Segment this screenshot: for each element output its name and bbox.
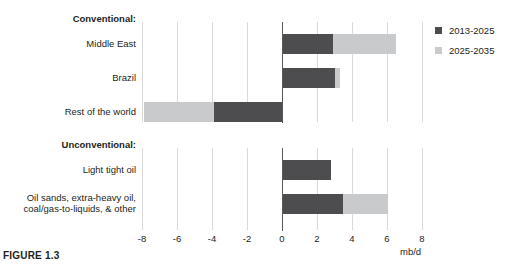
figure-caption: FIGURE 1.3 — [3, 250, 59, 261]
bar-segment-2025-2035 — [333, 34, 396, 54]
legend-label-2013-2025: 2013-2025 — [449, 25, 494, 36]
bar-segment-2025-2035 — [144, 102, 214, 122]
axis-tick--6: -6 — [165, 233, 189, 244]
legend-swatch-icon — [435, 27, 442, 34]
bar-segment-2013-2025 — [214, 102, 282, 122]
group-label-conventional: Conventional: — [73, 13, 136, 25]
gridline-zero-upper — [282, 22, 283, 123]
axis-tick-4: 4 — [340, 233, 364, 244]
gridline-8-lower — [422, 148, 423, 230]
axis-tick--8: -8 — [130, 233, 154, 244]
legend-label-2025-2035: 2025-2035 — [449, 45, 494, 56]
legend-item-2025-2035: 2025-2035 — [435, 45, 494, 56]
group-label-unconventional: Unconventional: — [62, 139, 136, 151]
axis-tick-2: 2 — [305, 233, 329, 244]
category-label-brazil: Brazil — [112, 72, 136, 84]
axis-tick--4: -4 — [200, 233, 224, 244]
gridline-zero-lower — [282, 148, 283, 231]
category-label-rest-of-the-world: Rest of the world — [65, 106, 136, 118]
legend: 2013-2025 2025-2035 — [435, 25, 494, 65]
bar-segment-2025-2035 — [335, 68, 340, 88]
axis-tick--2: -2 — [235, 233, 259, 244]
axis-tick-0: 0 — [270, 233, 294, 244]
category-label-oil-sands-line2: coal/gas-to-liquids, & other — [24, 203, 136, 215]
bar-segment-2013-2025 — [282, 68, 335, 88]
plot-area — [142, 22, 422, 230]
category-label-oil-sands-line1: Oil sands, extra-heavy oil, — [27, 192, 136, 204]
category-label-middle-east: Middle East — [86, 38, 136, 50]
bar-segment-2025-2035 — [343, 194, 388, 214]
axis-tick-6: 6 — [375, 233, 399, 244]
category-label-light-tight-oil: Light tight oil — [83, 164, 136, 176]
gridline-8 — [422, 22, 423, 122]
bar-segment-2013-2025 — [282, 194, 343, 214]
figure-container: Conventional: Middle East Brazil Rest of… — [0, 0, 525, 269]
bar-segment-2013-2025 — [282, 34, 333, 54]
legend-item-2013-2025: 2013-2025 — [435, 25, 494, 36]
legend-swatch-icon — [435, 47, 442, 54]
axis-unit-label: mb/d — [400, 246, 421, 257]
axis-tick-8: 8 — [410, 233, 434, 244]
bar-segment-2013-2025 — [282, 160, 331, 180]
